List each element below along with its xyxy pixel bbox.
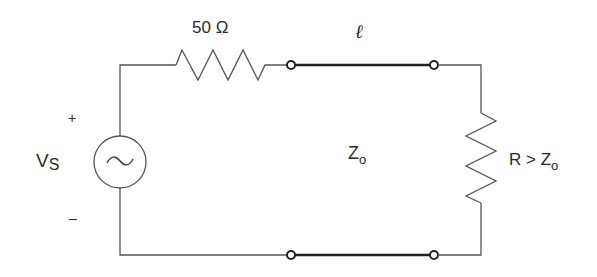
source-minus-sign: – [69,210,77,226]
series-resistor-icon [176,50,287,80]
wire-left-top [120,65,176,136]
source-plus-sign: + [68,110,76,126]
line-length-label: ℓ [355,20,363,43]
terminal-output-top [430,61,438,69]
source-voltage-main: V [36,150,49,171]
terminal-input-top [287,61,295,69]
wire-right-top [438,65,481,113]
impedance-main: Z [348,143,359,163]
series-resistor-label: 50 Ω [192,18,228,38]
load-label-main: R > Z [509,150,551,169]
characteristic-impedance-label: Zo [348,143,366,164]
impedance-subscript: o [359,152,366,167]
ac-voltage-source-icon [94,136,146,188]
terminal-output-bottom [430,251,438,259]
source-voltage-subscript: S [49,156,60,173]
wire-right-bottom [438,203,481,255]
wire-left-bottom [120,188,287,255]
load-resistor-label: R > Zo [509,150,558,170]
terminal-input-bottom [287,251,295,259]
load-label-subscript: o [551,158,558,173]
source-voltage-label: VS [36,150,59,172]
load-resistor-icon [466,113,496,203]
circuit-schematic [0,0,597,277]
